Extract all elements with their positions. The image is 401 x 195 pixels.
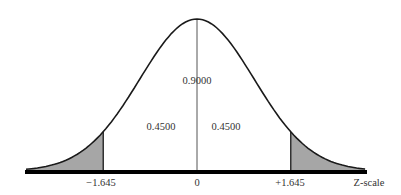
tick-label-zero: 0 bbox=[194, 177, 199, 188]
right-tail-shaded-region bbox=[291, 132, 365, 171]
normal-curve bbox=[26, 19, 365, 169]
tick-label-pos-1645: +1.645 bbox=[275, 177, 305, 188]
z-axis bbox=[25, 170, 367, 174]
axis-title-z-scale: Z-scale bbox=[354, 177, 385, 188]
left-tail-shaded-region bbox=[26, 132, 103, 171]
center-area-label: 0.9000 bbox=[183, 75, 212, 86]
tick-label-neg-1645: −1.645 bbox=[86, 177, 116, 188]
left-area-label: 0.4500 bbox=[147, 121, 176, 132]
right-area-label: 0.4500 bbox=[212, 121, 241, 132]
normal-distribution-chart: 0.9000 0.4500 0.4500 −1.645 0 +1.645 Z-s… bbox=[0, 0, 401, 195]
